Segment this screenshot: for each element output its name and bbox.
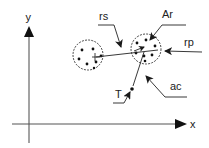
x-axis (12, 119, 187, 129)
target-point (130, 87, 134, 91)
rs-pointer-arrow (114, 25, 121, 47)
y-axis (24, 26, 34, 143)
y-axis-label: y (26, 11, 32, 23)
label-t: T (115, 88, 122, 100)
cluster-link-line (96, 50, 158, 57)
t-pointer-arrow (124, 92, 130, 103)
y-axis-arrow-icon (24, 26, 34, 37)
diagram-canvas: y x (0, 0, 209, 148)
diagram-svg: y x (0, 0, 209, 148)
label-ar: Ar (162, 8, 173, 20)
left-cluster (73, 40, 103, 70)
label-ac: ac (170, 80, 182, 92)
rp-pointer-arrow (165, 51, 202, 52)
inner-vector-arrow (134, 47, 144, 51)
ac-pointer-arrow (146, 76, 165, 97)
right-cluster (131, 34, 161, 64)
target-vector-line (133, 52, 144, 86)
label-rs: rs (99, 10, 109, 22)
x-axis-label: x (190, 118, 196, 130)
x-axis-arrow-icon (175, 119, 187, 129)
label-rp: rp (184, 36, 194, 48)
